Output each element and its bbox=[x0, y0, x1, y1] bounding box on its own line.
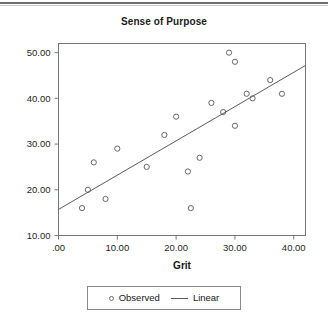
data-point bbox=[185, 169, 190, 174]
regression-line bbox=[59, 65, 306, 209]
data-point bbox=[232, 123, 237, 128]
x-axis-title: Grit bbox=[173, 260, 191, 271]
line-icon bbox=[171, 298, 188, 299]
chart-legend: Observed Linear bbox=[87, 286, 241, 310]
x-axis-tick-label: 30.00 bbox=[223, 242, 247, 253]
data-point bbox=[174, 114, 179, 119]
x-axis-tick-label: .00 bbox=[52, 242, 65, 253]
legend-entry-linear[interactable]: Linear bbox=[171, 293, 219, 303]
x-axis-tick-label: 10.00 bbox=[105, 242, 129, 253]
data-point bbox=[115, 146, 120, 151]
data-point bbox=[244, 91, 249, 96]
data-point bbox=[188, 205, 193, 210]
y-axis-tick-label: 30.00 bbox=[27, 138, 51, 149]
data-point bbox=[103, 196, 108, 201]
y-axis-tick-label: 10.00 bbox=[27, 230, 51, 241]
open-circle-icon bbox=[109, 296, 114, 301]
data-point bbox=[162, 132, 167, 137]
data-point bbox=[144, 164, 149, 169]
x-axis-tick-label: 40.00 bbox=[282, 242, 306, 253]
data-point bbox=[268, 77, 273, 82]
chart-figure: Sense of Purpose 10.0020.0030.0040.0050.… bbox=[0, 0, 328, 325]
plot-frame bbox=[59, 44, 306, 236]
legend-label-linear: Linear bbox=[193, 293, 219, 303]
data-point bbox=[79, 205, 84, 210]
scatter-plot: 10.0020.0030.0040.0050.00.0010.0020.0030… bbox=[0, 0, 328, 325]
data-point bbox=[226, 50, 231, 55]
x-axis-tick-label: 20.00 bbox=[164, 242, 188, 253]
y-axis-tick-label: 20.00 bbox=[27, 184, 51, 195]
y-axis-tick-label: 40.00 bbox=[27, 93, 51, 104]
legend-entry-observed[interactable]: Observed bbox=[109, 293, 160, 303]
y-axis-tick-label: 50.00 bbox=[27, 47, 51, 58]
data-point bbox=[232, 59, 237, 64]
data-point bbox=[91, 160, 96, 165]
legend-label-observed: Observed bbox=[119, 293, 160, 303]
data-point bbox=[279, 91, 284, 96]
data-point bbox=[209, 100, 214, 105]
data-point bbox=[197, 155, 202, 160]
